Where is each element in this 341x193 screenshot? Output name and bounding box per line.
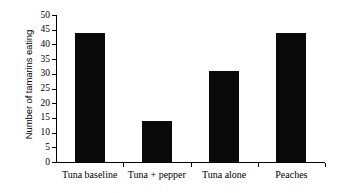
y-tick-label: 40 — [41, 38, 51, 50]
x-label-tuna-plus-pepper: Tuna + pepper — [123, 168, 190, 181]
plot-area: 0 5 10 15 20 25 30 35 — [56, 15, 325, 163]
y-axis-title: Number of tamarins eating — [23, 10, 34, 160]
bar-tuna-alone[interactable] — [209, 71, 239, 162]
y-tick-label: 35 — [41, 53, 51, 65]
bar-tuna-plus-pepper[interactable] — [142, 121, 172, 162]
bar-peaches[interactable] — [276, 33, 306, 162]
bar-slot — [258, 15, 325, 162]
x-tick-mark — [123, 163, 124, 167]
x-tick-mark — [191, 163, 192, 167]
x-axis-labels: Tuna baseline Tuna + pepper Tuna alone P… — [56, 168, 325, 186]
x-label-tuna-alone: Tuna alone — [191, 168, 258, 181]
y-tick-label: 45 — [41, 23, 51, 35]
y-tick-label: 50 — [41, 9, 51, 21]
bar-tuna-baseline[interactable] — [75, 33, 105, 162]
x-label-tuna-baseline: Tuna baseline — [56, 168, 123, 181]
y-tick-label: 5 — [45, 141, 50, 153]
y-tick-label: 0 — [45, 156, 50, 168]
y-tick-label: 25 — [41, 82, 51, 94]
x-tick-mark — [258, 163, 259, 167]
bar-slot — [191, 15, 258, 162]
y-tick-mark — [52, 162, 56, 163]
bar-slot — [56, 15, 123, 162]
bar-slot — [123, 15, 190, 162]
x-label-peaches: Peaches — [258, 168, 325, 181]
y-tick-label: 15 — [41, 111, 51, 123]
y-tick-label: 30 — [41, 67, 51, 79]
y-tick-label: 20 — [41, 97, 51, 109]
bar-chart-figure: Number of tamarins eating 0 5 10 15 20 2… — [0, 0, 341, 193]
y-tick-label: 10 — [41, 126, 51, 138]
x-tick-mark — [325, 163, 326, 167]
